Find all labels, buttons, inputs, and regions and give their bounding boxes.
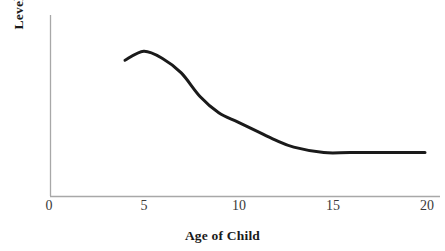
x-tick-label-15: 15 bbox=[313, 198, 353, 214]
y-axis-title: Level of Hope bbox=[8, 0, 30, 58]
x-tick-label-5: 5 bbox=[124, 198, 164, 214]
x-tick-label-0: 0 bbox=[29, 198, 69, 214]
x-axis-title: Age of Child bbox=[0, 228, 445, 244]
x-tick-label-20: 20 bbox=[407, 198, 445, 214]
line-chart: Level of Hope Age of Child 0 5 10 15 20 bbox=[0, 0, 445, 251]
x-tick-label-10: 10 bbox=[219, 198, 259, 214]
data-line-level-of-hope bbox=[125, 51, 425, 153]
